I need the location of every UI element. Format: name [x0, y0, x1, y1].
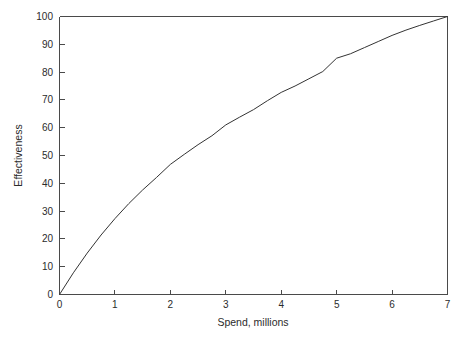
plot-frame [60, 17, 448, 295]
x-axis-ticks [60, 290, 448, 295]
y-axis-ticks [60, 17, 65, 295]
line-chart-svg: 0 10 20 30 40 50 60 70 80 90 100 0 1 [0, 0, 467, 337]
y-tick-label-50: 50 [42, 150, 54, 161]
x-tick-label-0: 0 [57, 299, 63, 310]
y-tick-label-10: 10 [42, 261, 54, 272]
x-axis-title: Spend, millions [217, 316, 288, 328]
x-tick-label-4: 4 [278, 299, 284, 310]
chart-figure: 0 10 20 30 40 50 60 70 80 90 100 0 1 [0, 0, 467, 337]
y-tick-label-100: 100 [36, 11, 53, 22]
x-tick-label-7: 7 [445, 299, 451, 310]
y-tick-label-70: 70 [42, 94, 54, 105]
y-tick-label-30: 30 [42, 206, 54, 217]
x-axis-tick-labels: 0 1 2 3 4 5 6 7 [57, 299, 451, 310]
y-tick-label-0: 0 [47, 289, 53, 300]
y-tick-label-80: 80 [42, 67, 54, 78]
x-tick-label-5: 5 [334, 299, 340, 310]
effectiveness-curve [60, 17, 448, 295]
y-axis-title: Effectiveness [12, 124, 24, 186]
y-tick-label-40: 40 [42, 178, 54, 189]
x-tick-label-3: 3 [223, 299, 229, 310]
x-tick-label-1: 1 [112, 299, 118, 310]
x-tick-label-2: 2 [168, 299, 174, 310]
x-tick-label-6: 6 [389, 299, 395, 310]
y-tick-label-20: 20 [42, 233, 54, 244]
y-tick-label-90: 90 [42, 39, 54, 50]
y-tick-label-60: 60 [42, 122, 54, 133]
y-axis-tick-labels: 0 10 20 30 40 50 60 70 80 90 100 [36, 11, 53, 300]
